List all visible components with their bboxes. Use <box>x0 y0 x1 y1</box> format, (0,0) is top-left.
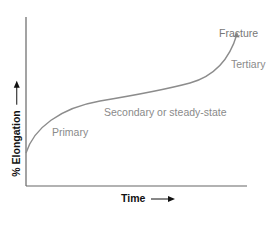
x-axis-label: Time <box>121 192 145 204</box>
y-axis-label: % Elongation <box>10 110 22 177</box>
x-axis-title: Time <box>121 193 176 204</box>
fracture-label: Fracture <box>219 28 258 39</box>
tertiary-label: Tertiary <box>231 59 265 70</box>
right-arrow-icon <box>150 195 176 203</box>
primary-label: Primary <box>52 127 88 138</box>
up-arrow-icon <box>13 79 21 105</box>
secondary-label: Secondary or steady-state <box>104 107 227 118</box>
y-axis-title: % Elongation <box>11 79 22 176</box>
